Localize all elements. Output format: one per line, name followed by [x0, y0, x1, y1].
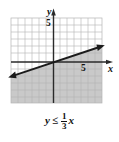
x-axis-label: x — [108, 64, 113, 74]
y-axis-tick-label-5: 5 — [46, 19, 51, 29]
y-axis-label: y — [47, 7, 51, 17]
y-axis-arrow-icon — [51, 9, 56, 16]
inequality-caption: y≤13x — [0, 112, 119, 132]
caption-relation-symbol: ≤ — [50, 114, 60, 126]
x-axis-tick-label-5: 5 — [81, 64, 86, 74]
inequality-graph-figure: y x 5 5 y≤13x — [0, 0, 119, 142]
caption-fraction-numerator: 1 — [61, 112, 68, 121]
caption-fraction-denominator: 3 — [61, 121, 68, 131]
caption-rhs-variable: x — [68, 114, 74, 126]
caption-fraction: 13 — [61, 112, 68, 132]
